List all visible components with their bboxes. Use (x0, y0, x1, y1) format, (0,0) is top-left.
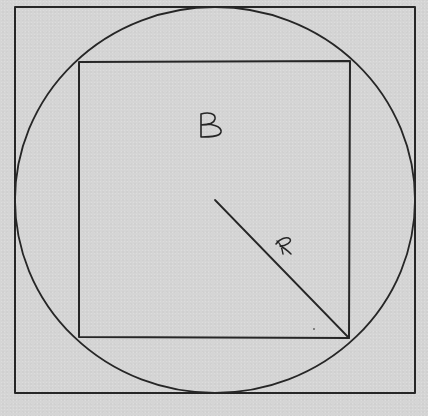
print-speck (313, 328, 315, 330)
geometry-figure: B R (0, 0, 428, 416)
square-label-b: B (0, 0, 221, 137)
radius-label-r: R (0, 0, 291, 254)
radius-line (215, 200, 349, 338)
